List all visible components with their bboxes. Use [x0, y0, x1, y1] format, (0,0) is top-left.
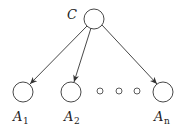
bayesian-network-diagram: C A 1 A 2 A n — [0, 0, 183, 132]
node-a2-subscript: 2 — [74, 116, 80, 126]
node-a2-label: A — [63, 109, 73, 124]
node-an-subscript: n — [164, 116, 170, 126]
node-an-label: A — [153, 109, 163, 124]
node-a2 — [61, 82, 81, 102]
node-c-label: C — [67, 7, 77, 22]
node-an — [153, 82, 173, 102]
edge-c-an — [102, 25, 157, 84]
diagram-svg: C A 1 A 2 A n — [0, 0, 183, 132]
node-c — [84, 9, 104, 29]
ellipsis-dot — [134, 88, 140, 94]
node-a1 — [13, 82, 33, 102]
ellipsis-dot — [97, 88, 103, 94]
node-a1-label: A — [12, 109, 22, 124]
ellipsis-dot — [116, 88, 122, 94]
node-a1-subscript: 1 — [23, 116, 29, 126]
edge-c-a1 — [30, 26, 87, 84]
